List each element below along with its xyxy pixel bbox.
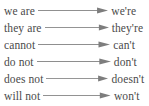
- source-phrase: cannot: [0, 39, 35, 51]
- list-item: cannot can't: [0, 36, 148, 53]
- arrow-right-icon: [43, 75, 111, 82]
- arrow-right-icon: [42, 24, 112, 31]
- target-contraction: don't: [114, 56, 148, 68]
- list-item: do not don't: [0, 53, 148, 70]
- arrow-right-icon: [35, 41, 113, 48]
- target-contraction: won't: [114, 90, 148, 102]
- list-item: they are they're: [0, 19, 148, 36]
- target-contraction: we're: [111, 5, 148, 17]
- arrow-right-icon: [34, 58, 114, 65]
- source-phrase: they are: [0, 22, 42, 34]
- source-phrase: we are: [0, 5, 35, 17]
- list-item: will not won't: [0, 87, 148, 104]
- arrow-right-icon: [35, 7, 111, 14]
- target-contraction: can't: [113, 39, 148, 51]
- list-item: does not doesn't: [0, 70, 148, 87]
- source-phrase: do not: [0, 56, 34, 68]
- target-contraction: they're: [112, 22, 148, 34]
- arrow-right-icon: [40, 92, 114, 99]
- source-phrase: does not: [0, 73, 43, 85]
- target-contraction: doesn't: [112, 73, 149, 85]
- contractions-list: we are we're they are they're cannot can: [0, 0, 148, 106]
- source-phrase: will not: [0, 90, 40, 102]
- list-item: we are we're: [0, 2, 148, 19]
